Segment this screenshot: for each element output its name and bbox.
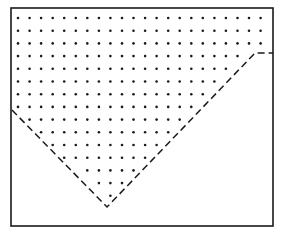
grid-dot bbox=[75, 42, 78, 45]
grid-dot bbox=[132, 55, 135, 58]
grid-dot bbox=[121, 169, 124, 172]
grid-dot bbox=[132, 156, 135, 159]
grid-dot bbox=[75, 29, 78, 32]
grid-dot bbox=[225, 29, 228, 32]
grid-dot bbox=[28, 17, 31, 20]
grid-dot bbox=[121, 106, 124, 109]
grid-dot bbox=[75, 144, 78, 147]
grid-dot bbox=[178, 17, 181, 20]
grid-dot bbox=[155, 80, 158, 83]
grid-dot bbox=[259, 29, 262, 32]
grid-dot bbox=[109, 55, 112, 58]
grid-dot bbox=[213, 42, 216, 45]
grid-dot bbox=[167, 55, 170, 58]
grid-dot bbox=[248, 42, 251, 45]
grid-dot bbox=[144, 80, 147, 83]
grid-dot bbox=[86, 17, 89, 20]
grid-dot bbox=[155, 68, 158, 71]
grid-dot bbox=[213, 29, 216, 32]
grid-dot bbox=[121, 17, 124, 20]
grid-dot bbox=[155, 118, 158, 121]
grid-dot bbox=[98, 29, 101, 32]
grid-dot bbox=[63, 17, 66, 20]
grid-dot bbox=[86, 80, 89, 83]
grid-dot bbox=[202, 17, 205, 20]
grid-dot bbox=[63, 118, 66, 121]
grid-dot bbox=[225, 17, 228, 20]
grid-dot bbox=[63, 144, 66, 147]
grid-dot bbox=[98, 118, 101, 121]
grid-dot bbox=[155, 29, 158, 32]
dashed-boundary-line bbox=[12, 53, 273, 207]
grid-dot bbox=[17, 29, 20, 32]
grid-dot bbox=[75, 93, 78, 96]
grid-dot bbox=[28, 93, 31, 96]
grid-dot bbox=[109, 68, 112, 71]
grid-dot bbox=[63, 55, 66, 58]
grid-dot bbox=[75, 80, 78, 83]
grid-dot bbox=[98, 144, 101, 147]
grid-dot bbox=[132, 29, 135, 32]
grid-dot bbox=[236, 55, 239, 58]
grid-dot bbox=[109, 195, 112, 198]
grid-dot bbox=[28, 80, 31, 83]
grid-dot bbox=[75, 17, 78, 20]
grid-dot bbox=[98, 17, 101, 20]
dotted-region-diagram bbox=[0, 0, 281, 232]
grid-dot bbox=[51, 80, 54, 83]
bounding-box bbox=[11, 8, 273, 226]
grid-dot bbox=[109, 93, 112, 96]
grid-dot bbox=[17, 80, 20, 83]
grid-dot bbox=[86, 106, 89, 109]
grid-dot bbox=[40, 93, 43, 96]
grid-dot bbox=[259, 17, 262, 20]
grid-dot bbox=[132, 144, 135, 147]
grid-dot bbox=[63, 68, 66, 71]
grid-dot bbox=[75, 156, 78, 159]
grid-dot bbox=[167, 29, 170, 32]
grid-dot bbox=[155, 55, 158, 58]
grid-dot bbox=[63, 106, 66, 109]
grid-dot bbox=[86, 169, 89, 172]
grid-dot bbox=[40, 80, 43, 83]
grid-dot bbox=[155, 93, 158, 96]
grid-dot bbox=[144, 156, 147, 159]
grid-dot bbox=[202, 42, 205, 45]
grid-dot bbox=[28, 55, 31, 58]
grid-dot bbox=[51, 93, 54, 96]
grid-dot bbox=[63, 42, 66, 45]
grid-dot bbox=[28, 106, 31, 109]
grid-dot bbox=[98, 80, 101, 83]
grid-dot bbox=[155, 131, 158, 134]
grid-dot bbox=[109, 156, 112, 159]
grid-dot bbox=[75, 131, 78, 134]
grid-dot bbox=[236, 29, 239, 32]
grid-dot bbox=[40, 131, 43, 134]
grid-dot bbox=[190, 68, 193, 71]
grid-dot bbox=[132, 17, 135, 20]
grid-dot bbox=[132, 131, 135, 134]
grid-dot bbox=[121, 118, 124, 121]
grid-dot bbox=[202, 55, 205, 58]
grid-dot bbox=[132, 169, 135, 172]
grid-dot bbox=[213, 55, 216, 58]
grid-dot bbox=[51, 29, 54, 32]
grid-dot bbox=[17, 106, 20, 109]
grid-dot bbox=[109, 182, 112, 185]
grid-dot bbox=[132, 106, 135, 109]
grid-dot bbox=[63, 80, 66, 83]
grid-dot bbox=[40, 17, 43, 20]
grid-dot bbox=[28, 68, 31, 71]
grid-dot bbox=[236, 17, 239, 20]
grid-dot bbox=[190, 93, 193, 96]
grid-dot bbox=[98, 68, 101, 71]
grid-dot bbox=[225, 55, 228, 58]
grid-dot bbox=[51, 118, 54, 121]
grid-dot bbox=[17, 42, 20, 45]
grid-dot bbox=[63, 93, 66, 96]
grid-dot bbox=[202, 80, 205, 83]
grid-dot bbox=[98, 131, 101, 134]
grid-dot bbox=[121, 93, 124, 96]
dot-grid bbox=[17, 17, 262, 197]
grid-dot bbox=[132, 42, 135, 45]
